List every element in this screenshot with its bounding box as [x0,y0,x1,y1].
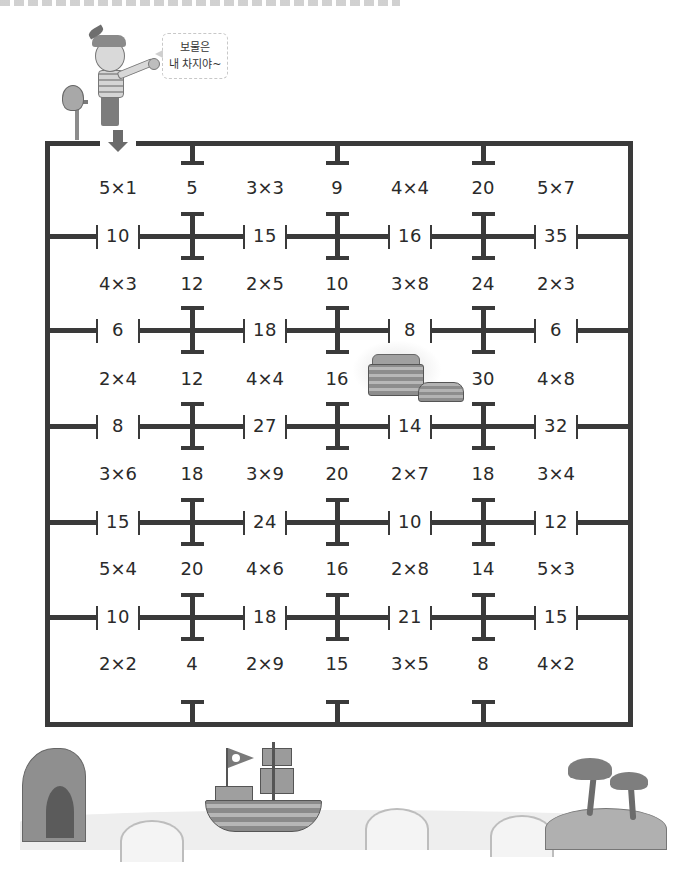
maze-cell[interactable]: 4×4 [225,367,305,391]
gate-number[interactable]: 16 [380,224,440,248]
wall-post-cap [326,306,349,310]
maze-cell[interactable]: 2×7 [370,462,450,486]
maze-cell[interactable]: 4×4 [370,176,450,200]
start-arrow-icon [113,130,123,144]
gate-number[interactable]: 6 [526,318,586,342]
gate-number[interactable]: 18 [235,605,295,629]
small-chest-icon [418,382,464,402]
maze-cell[interactable]: 4×2 [516,652,596,676]
gate-number[interactable]: 27 [235,414,295,438]
wall-post-cap [472,350,495,354]
maze-cell[interactable]: 15 [297,652,377,676]
wall-post-cap [472,637,495,641]
wall-post [190,214,195,260]
maze-cell[interactable]: 24 [443,272,523,296]
maze-cell[interactable]: 5×7 [516,176,596,200]
speech-line-1: 보물은 [163,39,227,56]
gate-number[interactable]: 15 [526,605,586,629]
maze-cell[interactable]: 3×6 [78,462,158,486]
gate-number[interactable]: 32 [526,414,586,438]
ship-sail-main [260,768,294,794]
wall-post-cap [181,637,204,641]
parrot-icon [62,85,84,111]
wall-post-cap [326,542,349,546]
wall-post-cap [181,256,204,260]
wall-post-cap [181,446,204,450]
maze-cell[interactable]: 20 [443,176,523,200]
wall-post [190,404,195,450]
maze-cell[interactable]: 2×5 [225,272,305,296]
maze-cell[interactable]: 5 [152,176,232,200]
maze-cell[interactable]: 16 [297,557,377,581]
cave-icon [46,786,74,838]
island-icon [545,808,667,850]
maze-cell[interactable]: 5×1 [78,176,158,200]
gate-number[interactable]: 10 [88,224,148,248]
maze-cell[interactable]: 9 [297,176,377,200]
maze-wall [578,328,628,333]
maze-cell[interactable]: 4×6 [225,557,305,581]
maze-cell[interactable]: 5×4 [78,557,158,581]
wall-post-cap [181,700,204,704]
gate-number[interactable]: 21 [380,605,440,629]
gate-number[interactable]: 14 [380,414,440,438]
maze-cell[interactable]: 2×9 [225,652,305,676]
gate-number[interactable]: 6 [88,318,148,342]
gate-number[interactable]: 12 [526,510,586,534]
maze-wall [578,615,628,620]
maze-cell[interactable]: 3×4 [516,462,596,486]
maze-cell[interactable]: 20 [297,462,377,486]
maze-cell[interactable]: 18 [443,462,523,486]
maze-cell[interactable]: 4×8 [516,367,596,391]
maze-cell[interactable]: 12 [152,367,232,391]
maze-cell[interactable]: 20 [152,557,232,581]
treasure-chest-icon [368,364,424,396]
maze-cell[interactable]: 2×2 [78,652,158,676]
gate-number[interactable]: 18 [235,318,295,342]
gate-number[interactable]: 10 [380,510,440,534]
speech-line-2: 내 차지야~ [163,56,227,73]
wall-post-cap [181,498,204,502]
maze-cell[interactable]: 14 [443,557,523,581]
maze-cell[interactable]: 10 [297,272,377,296]
wall-post [481,595,486,641]
wall-post [335,214,340,260]
maze-cell[interactable]: 2×8 [370,557,450,581]
maze-cell[interactable]: 2×3 [516,272,596,296]
gate-number[interactable]: 8 [88,414,148,438]
palm-leaves-icon [568,758,612,780]
maze-cell[interactable]: 3×8 [370,272,450,296]
pirate-ship-icon [205,800,322,832]
wall-post-cap [326,256,349,260]
wall-post [335,702,340,724]
palm-leaves-icon [610,772,648,790]
gate-number[interactable]: 8 [380,318,440,342]
gate-number[interactable]: 10 [88,605,148,629]
maze-cell[interactable]: 4×3 [78,272,158,296]
wall-post-cap [181,212,204,216]
gate-number[interactable]: 15 [235,224,295,248]
wall-post-cap [181,350,204,354]
gate-number[interactable]: 35 [526,224,586,248]
maze-cell[interactable]: 2×4 [78,367,158,391]
maze-cell[interactable]: 5×3 [516,557,596,581]
boy-legs [101,96,119,126]
wall-post [481,308,486,354]
gate-number[interactable]: 15 [88,510,148,534]
maze-cell[interactable]: 18 [152,462,232,486]
maze-cell[interactable]: 12 [152,272,232,296]
maze-cell[interactable]: 3×5 [370,652,450,676]
pirate-hat-icon [92,35,126,47]
wall-post-cap [326,637,349,641]
gate-number[interactable]: 24 [235,510,295,534]
wall-post [190,500,195,546]
maze-cell[interactable]: 4 [152,652,232,676]
wall-post-cap [181,593,204,597]
maze-cell[interactable]: 3×9 [225,462,305,486]
wall-post-cap [472,212,495,216]
maze-cell[interactable]: 8 [443,652,523,676]
wall-post-cap [326,161,349,165]
maze-cell[interactable]: 3×3 [225,176,305,200]
wall-post [335,595,340,641]
speech-bubble: 보물은 내 차지야~ [162,33,228,79]
